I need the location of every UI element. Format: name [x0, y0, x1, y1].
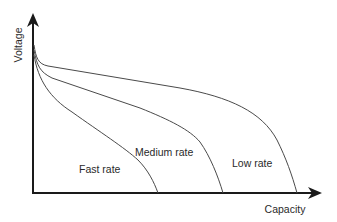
discharge-curve-diagram: Voltage Capacity Fast rate Medium rate L… [0, 0, 337, 222]
low-rate-label: Low rate [232, 157, 272, 169]
medium-rate-label: Medium rate [135, 146, 194, 158]
y-axis-label: Voltage [12, 27, 24, 62]
fast-rate-label: Fast rate [79, 163, 121, 175]
medium-rate-curve [34, 50, 223, 193]
x-axis-label: Capacity [265, 203, 307, 215]
